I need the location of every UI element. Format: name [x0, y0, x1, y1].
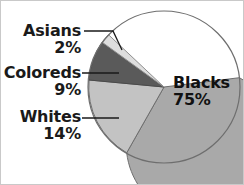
pie-label-asians-value: 2% — [7, 40, 81, 57]
pie-slice-coloreds — [89, 42, 164, 87]
pie-label-blacks: Blacks 75% — [173, 75, 230, 108]
pie-label-whites: Whites 14% — [5, 109, 81, 142]
pie-label-whites-value: 14% — [5, 126, 81, 143]
pie-label-coloreds-value: 9% — [1, 82, 81, 99]
pie-label-asians: Asians 2% — [7, 23, 81, 56]
pie-chart-figure: Asians 2% Coloreds 9% Whites 14% Blacks … — [0, 0, 244, 185]
pie-label-coloreds: Coloreds 9% — [1, 65, 81, 98]
pie-label-blacks-value: 75% — [173, 92, 230, 109]
